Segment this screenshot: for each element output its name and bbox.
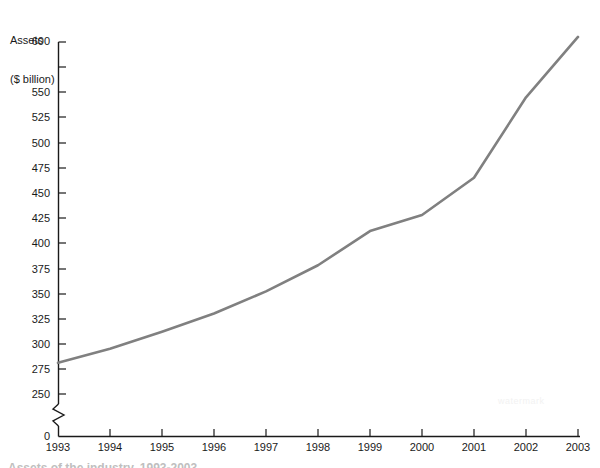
y-tick-label-550: 550: [14, 87, 50, 98]
y-tick-label-525: 525: [14, 112, 50, 123]
y-axis-ticks: [59, 42, 67, 394]
y-tick-label-475: 475: [14, 163, 50, 174]
y-tick-label-450: 450: [14, 188, 50, 199]
y-tick-label-425: 425: [14, 213, 50, 224]
y-tick-label-325: 325: [14, 314, 50, 325]
x-tick-label-2003: 2003: [555, 442, 600, 453]
y-axis-origin-label: 0: [14, 431, 50, 442]
x-tick-label-2002: 2002: [503, 442, 549, 453]
chart-container: Assets ($ billion): [0, 0, 600, 468]
y-tick-label-500: 500: [14, 138, 50, 149]
y-tick-label-250: 250: [14, 389, 50, 400]
x-tick-label-2001: 2001: [451, 442, 497, 453]
watermark-text: watermark: [498, 396, 545, 406]
x-tick-label-1994: 1994: [87, 442, 133, 453]
x-tick-label-1995: 1995: [139, 442, 185, 453]
y-tick-label-400: 400: [14, 238, 50, 249]
y-tick-label-300: 300: [14, 339, 50, 350]
x-axis-ticks: [110, 429, 578, 437]
y-axis-break-zigzag: [53, 404, 64, 426]
chart-caption: Assets of the industry, 1993-2003: [8, 462, 197, 468]
x-tick-label-2000: 2000: [399, 442, 445, 453]
x-tick-label-1999: 1999: [347, 442, 393, 453]
y-tick-label-375: 375: [14, 264, 50, 275]
y-tick-label-350: 350: [14, 289, 50, 300]
x-tick-label-1998: 1998: [295, 442, 341, 453]
x-tick-label-1997: 1997: [243, 442, 289, 453]
x-tick-label-1993: 1993: [35, 442, 81, 453]
caption-strip: Assets of the industry, 1993-2003: [0, 462, 600, 468]
x-tick-label-1996: 1996: [191, 442, 237, 453]
y-tick-label-600: 600: [14, 36, 50, 47]
data-series-line: [58, 37, 578, 363]
y-tick-label-275: 275: [14, 364, 50, 375]
